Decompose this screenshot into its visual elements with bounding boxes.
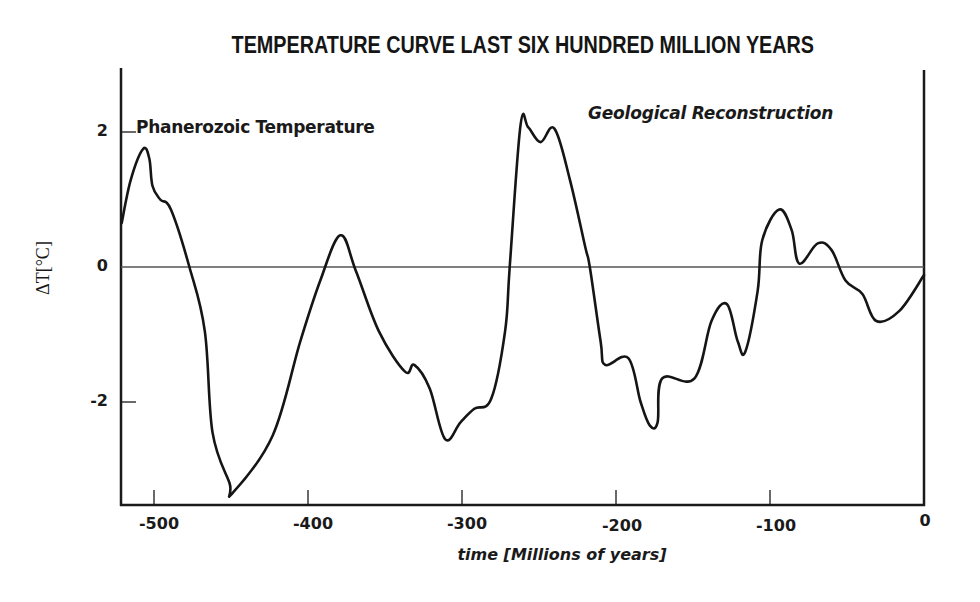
y-tick-label-0: 0 — [68, 256, 108, 275]
annotation-geological: Geological Reconstruction — [588, 103, 833, 123]
x-tick-label-neg100: -100 — [741, 516, 811, 535]
plot-area — [0, 0, 980, 602]
x-tick-label-0: 0 — [890, 511, 960, 530]
y-axis-label: ΔT[°C] — [33, 213, 53, 323]
x-tick-label-neg500: -500 — [124, 514, 194, 533]
temperature-curve — [122, 114, 924, 497]
temperature-chart: TEMPERATURE CURVE LAST SIX HUNDRED MILLI… — [0, 0, 980, 602]
y-tick-label-neg2: -2 — [68, 391, 108, 410]
chart-title: TEMPERATURE CURVE LAST SIX HUNDRED MILLI… — [76, 32, 919, 59]
x-tick-label-neg400: -400 — [278, 514, 348, 533]
x-tick-label-neg200: -200 — [587, 516, 657, 535]
x-axis-label: time [Millions of years] — [322, 545, 802, 564]
annotation-phanerozoic: Phanerozoic Temperature — [136, 117, 375, 137]
x-tick-label-neg300: -300 — [432, 514, 502, 533]
y-tick-label-2: 2 — [68, 121, 108, 140]
x-tick-marks — [154, 490, 770, 505]
